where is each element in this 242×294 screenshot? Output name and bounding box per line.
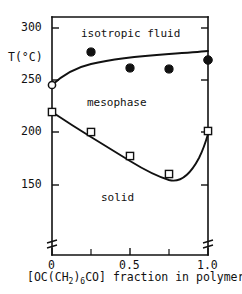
caption-sub2: 6 bbox=[80, 277, 85, 286]
data-point-open-square bbox=[165, 170, 172, 177]
y-tick-label-300: 300 bbox=[21, 22, 42, 34]
data-point-open-square bbox=[126, 152, 133, 159]
data-point-filled-circle bbox=[165, 65, 173, 73]
lower-boundary-curve bbox=[52, 112, 208, 181]
phase-diagram-figure: T(°C) 300 250 200 150 0 0.5 1.0 isotropi… bbox=[0, 0, 242, 294]
caption-seg3: CO bbox=[85, 270, 99, 284]
caption-seg1: OC(CH bbox=[34, 270, 69, 284]
caption-close-bracket: ] bbox=[99, 270, 106, 284]
data-point-open-circle bbox=[48, 81, 55, 88]
y-tick-label-250: 250 bbox=[21, 74, 42, 86]
region-label-isotropic-fluid: isotropic fluid bbox=[81, 28, 180, 39]
x-axis-caption: [OC(CH2)6CO] fraction in polymer bbox=[27, 272, 242, 284]
region-label-solid: solid bbox=[101, 192, 134, 203]
y-axis-title: T(°C) bbox=[8, 52, 43, 64]
data-point-filled-circle bbox=[87, 48, 95, 56]
caption-sub1: 2 bbox=[69, 277, 74, 286]
data-point-filled-circle bbox=[126, 64, 134, 72]
data-point-filled-circle bbox=[204, 56, 213, 65]
caption-open-bracket: [ bbox=[27, 270, 34, 284]
region-label-mesophase: mesophase bbox=[87, 97, 147, 108]
data-point-open-square bbox=[87, 128, 94, 135]
y-tick-label-150: 150 bbox=[21, 179, 42, 191]
plot-area bbox=[0, 0, 242, 294]
data-point-open-square bbox=[48, 108, 55, 115]
data-point-open-square bbox=[204, 127, 211, 134]
y-tick-label-200: 200 bbox=[21, 126, 42, 138]
caption-tail: fraction in polymer bbox=[106, 270, 242, 284]
